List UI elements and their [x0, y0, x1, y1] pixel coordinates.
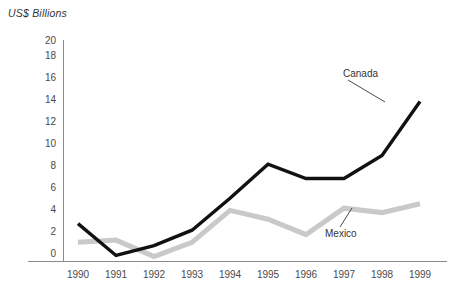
y-tick-6: 6 [28, 183, 56, 193]
y-tick-10: 10 [28, 139, 56, 149]
series-line-canada [78, 102, 420, 256]
y-tick-16: 16 [28, 73, 56, 83]
series-label-canada: Canada [343, 68, 378, 79]
y-tick-8: 8 [28, 161, 56, 171]
y-tick-14: 14 [28, 95, 56, 105]
y-tick-4: 4 [28, 205, 56, 215]
y-tick-20: 20 [28, 36, 56, 46]
series-line-mexico [78, 204, 420, 257]
y-tick-12: 12 [28, 117, 56, 127]
y-tick-2: 2 [28, 227, 56, 237]
chart-plot-area [0, 0, 462, 295]
series-lines [78, 102, 420, 257]
chart-container: US$ Billions 0 2 4 6 8 10 12 14 16 18 20… [0, 0, 462, 295]
annotation-leader-lines [340, 80, 385, 227]
y-tick-0: 0 [28, 249, 56, 259]
series-label-mexico: Mexico [325, 228, 357, 239]
leader-line-canada [348, 80, 385, 102]
y-tick-18: 18 [28, 51, 56, 61]
x-tick-1999: 1999 [398, 270, 442, 280]
